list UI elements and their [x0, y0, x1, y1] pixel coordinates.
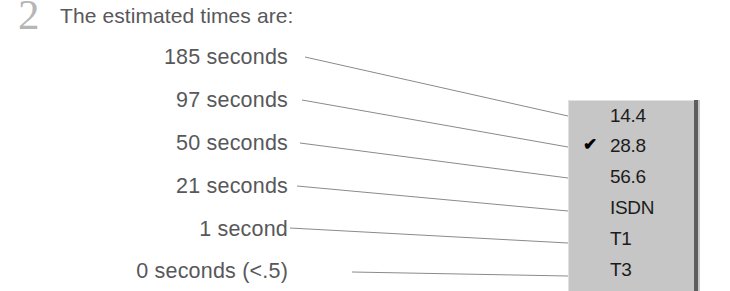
menu-item-28-8[interactable]: ✔28.8 — [569, 131, 695, 161]
menu-item-label: 14.4 — [610, 105, 646, 127]
menu-item-isdn[interactable]: ✔ISDN — [569, 193, 695, 223]
connection-speed-dropdown[interactable]: ✔14.4✔28.8✔56.6✔ISDN✔T1✔T3 — [568, 100, 694, 291]
menu-item-56-6[interactable]: ✔56.6 — [569, 162, 695, 192]
time-label: 21 seconds — [176, 174, 288, 199]
time-label: 97 seconds — [176, 88, 288, 113]
time-label: 0 seconds (<.5) — [136, 259, 288, 284]
dropdown-shadow-soft — [698, 100, 700, 291]
menu-item-label: 28.8 — [610, 135, 646, 157]
page-title: The estimated times are: — [60, 4, 294, 28]
check-icon: ✔ — [583, 136, 597, 153]
menu-item-label: 56.6 — [610, 166, 646, 188]
time-label: 50 seconds — [176, 131, 288, 156]
leader-line — [302, 100, 568, 147]
leader-line — [300, 143, 568, 178]
menu-item-t1[interactable]: ✔T1 — [569, 224, 695, 254]
callout-figure: 2 The estimated times are: 185 seconds97… — [0, 0, 730, 291]
leader-line — [352, 272, 568, 276]
menu-item-label: T1 — [610, 228, 632, 250]
leader-line — [290, 228, 568, 243]
menu-item-label: T3 — [610, 259, 632, 281]
menu-item-14-4[interactable]: ✔14.4 — [569, 101, 695, 131]
time-label: 1 second — [199, 217, 288, 242]
leader-line — [297, 186, 568, 211]
menu-item-label: ISDN — [610, 197, 654, 219]
step-number: 2 — [18, 0, 40, 36]
leader-line — [305, 57, 568, 116]
time-label: 185 seconds — [164, 45, 288, 70]
menu-item-t3[interactable]: ✔T3 — [569, 255, 695, 285]
